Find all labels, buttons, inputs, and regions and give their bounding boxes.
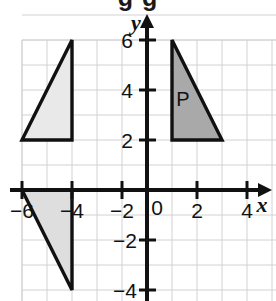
x-tick-label-neg4: −4 — [60, 199, 84, 222]
graph-figure: g g — [0, 0, 276, 301]
y-tick-label-neg2: −2 — [113, 229, 137, 252]
y-axis-arrow-icon — [140, 14, 154, 28]
x-tick-label-2: 2 — [191, 199, 203, 222]
shape-label-p: P — [176, 88, 189, 110]
y-tick-label-4: 4 — [121, 79, 133, 102]
x-tick-label-4: 4 — [241, 199, 253, 222]
y-tick-label-neg4: −4 — [113, 279, 137, 301]
x-tick-label-neg6: −6 — [10, 199, 34, 222]
x-tick-label-neg2: −2 — [110, 199, 134, 222]
y-tick-label-2: 2 — [121, 129, 133, 152]
grid-lines — [0, 15, 276, 301]
origin-label: 0 — [151, 196, 163, 219]
coordinate-plane: −6 −4 −2 0 2 4 6 4 2 −2 −4 x y P — [0, 0, 276, 301]
x-axis-label: x — [256, 192, 268, 217]
